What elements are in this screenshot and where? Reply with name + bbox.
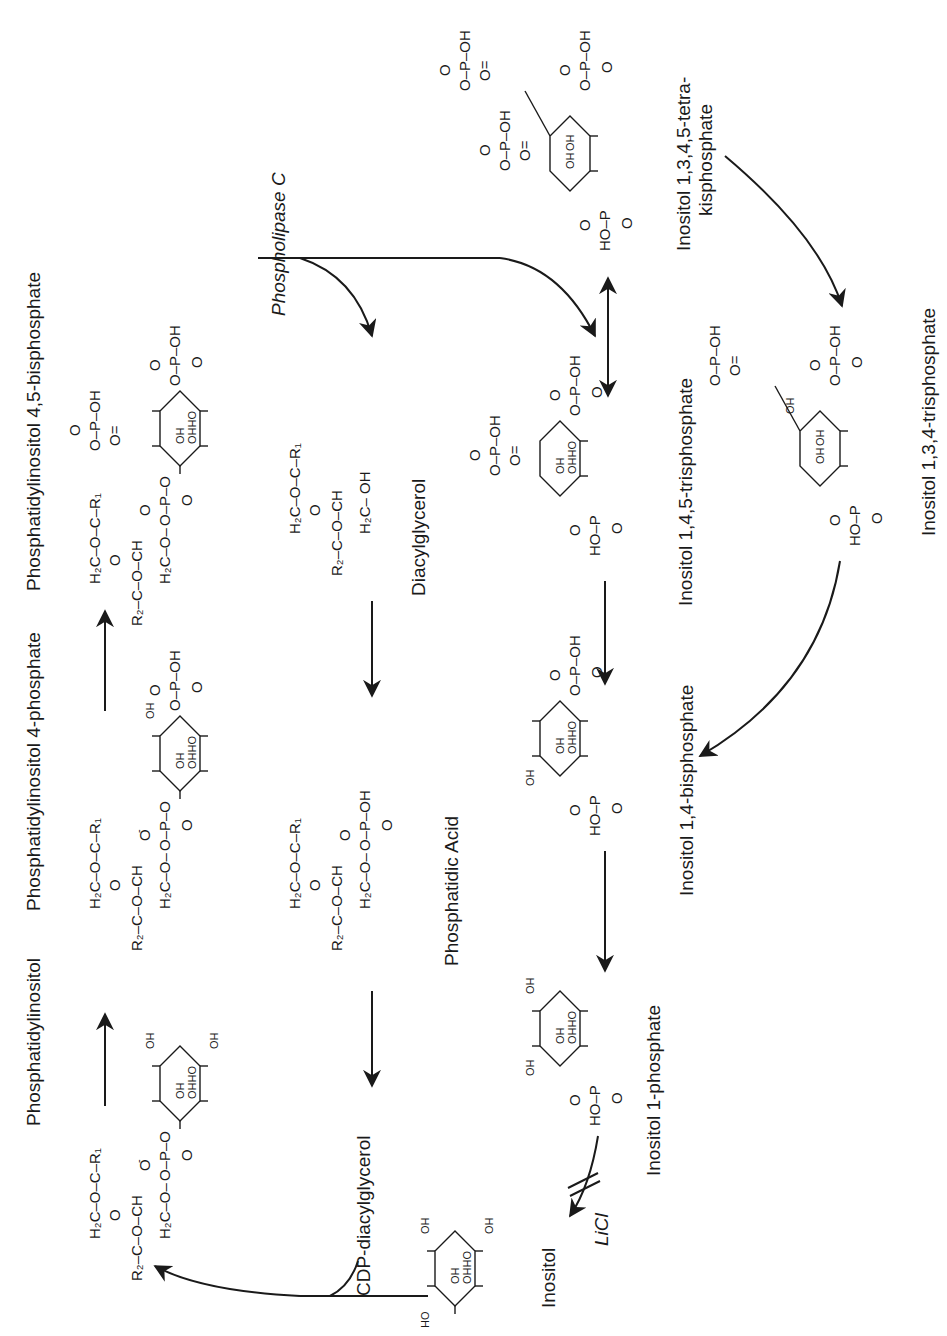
label-ip1: Inositol 1-phosphate [643,1005,664,1176]
chem-row: H₂C–O– [356,853,373,909]
licl-block-mark-2 [568,1173,598,1188]
ring-oh: OH [554,1027,566,1044]
chem-row: O–P–OH [86,390,103,451]
chem-row: HO–P [846,505,863,546]
chem-row: R₂–C–O–CH [128,540,145,626]
inositol-ring: OH OHHO OH [144,702,208,799]
chem-row: HO–P [596,210,613,251]
structure-ip2: HO–P O O OH OHHO OH O–P–OH O O [524,635,625,836]
chem-row: H₂C–O–C–R₁ [286,818,303,909]
atom: O [608,522,625,534]
ring-ho: HO [419,1311,431,1328]
inositol-ring: OH OHHO OH OH [144,1032,220,1129]
chem-row: H₂C–O–C–R₁ [86,1148,103,1239]
ring-oh: OH [564,152,576,169]
atom: O [566,804,583,816]
atom: O [146,684,163,696]
ring-oh: OH [564,134,576,151]
ring-oh: OH [524,1059,536,1076]
label-diacylglycerol: Diacylglycerol [408,479,429,596]
atom: O [588,666,605,678]
atom: O [598,61,615,73]
chem-row: O–P–OH [826,325,843,386]
chem-row: R₂–C–O–CH [128,865,145,951]
atom: O [306,879,323,891]
inositol-ring: OH OH OH [775,386,848,486]
atom: O [566,524,583,536]
label-phosphatidic-acid: Phosphatidic Acid [441,816,462,966]
structure-ip1: HO–P O O OH OHHO OH OH [524,977,625,1126]
atom: O [806,359,823,371]
inositol-ring: OH OHHO [540,421,588,496]
atom: O [566,1094,583,1106]
atom: O [106,1209,123,1221]
atom: O= [506,445,523,466]
chem-row: O–P–OH [166,325,183,386]
structure-ip3-134: HO–P O O OH OH OH O–P–OH O= O–P–OH O O [706,325,885,546]
ring-ohho: OHHO [566,721,578,754]
charge: - [132,829,144,833]
arrow-ip3-134-to-ip2 [700,561,840,756]
atom: O [826,514,843,526]
chem-row: O–P–O [156,476,173,526]
arrow-plc-to-ip3 [500,258,595,336]
atom: O [608,802,625,814]
chem-row: HO–P [586,795,603,836]
pathway-figure: Phosphatidylinositol Phosphatidylinosito… [0,0,947,1336]
chem-row: H₂C–O–C–R₁ [86,493,103,584]
inositol-ring: OH OHHO OH OH [524,977,588,1076]
structure-pa: O R₂–C–O–CH H₂C–O–C–R₁ H₂C–O– O–P–OH O O [286,790,395,951]
atom: O [378,819,395,831]
ring-oh: OH [174,427,186,444]
structure-pi: O R₂–C–O–CH H₂C–O–C–R₁ H₂C–O– O–P–O O - … [86,1032,220,1281]
ring-ohho: OHHO [566,441,578,474]
chem-row: O–P–OH [566,355,583,416]
chem-row: R₂–C–O–CH [328,865,345,951]
ring-oh: OH [814,429,826,446]
label-cdp-diacylglycerol: CDP-diacylglycerol [353,1136,374,1297]
reaction-arrows [105,156,842,1296]
atom: O [608,1092,625,1104]
ring-oh: OH [554,457,566,474]
chem-row: H₂C–O–C–R₁ [86,818,103,909]
ring-ohho: OHHO [461,1251,473,1284]
atom: O [178,819,195,831]
chem-row: O–P–OH [356,790,373,851]
inositol-ring: OH OHHO [152,391,208,474]
structure-ip3: HO–P O O OH OHHO O–P–OH O= O O–P–OH O O [466,355,625,556]
label-phosphatidylinositol: Phosphatidylinositol [23,958,44,1126]
atom: O [576,219,593,231]
atom: O [868,512,885,524]
ring-ohho: OHHO [186,411,198,444]
atom: O [466,449,483,461]
ring-oh: OH [814,447,826,464]
label-ip4-line2: kisphosphate [695,104,716,216]
ring-ohho: OHHO [186,736,198,769]
ring-oh: OH [784,397,796,414]
label-ip3-134: Inositol 1,3,4-trisphosphate [918,308,939,536]
label-ip3: Inositol 1,4,5-trisphosphate [675,378,696,606]
label-licl: LiCl [591,1212,612,1246]
chem-row: O–P–OH [486,415,503,476]
atom: O [588,386,605,398]
chem-row: HO–P [586,515,603,556]
chem-row: O–P–OH [166,650,183,711]
chem-row: O–P–O [156,801,173,851]
chem-row: H₂C–O– [156,853,173,909]
atom: O [106,554,123,566]
atom: O [546,669,563,681]
ring-oh: OH [524,769,536,786]
ring-oh: OH [554,737,566,754]
inositol-ring: OH OHHO OH [524,701,588,786]
ring-oh: OH [419,1217,431,1234]
atom: O [556,64,573,76]
ring-ohho: OHHO [186,1066,198,1099]
ring-oh: OH [524,977,536,994]
atom: O [618,217,635,229]
label-ip2: Inositol 1,4-bisphosphate [676,685,697,896]
chem-row: HO–P [586,1085,603,1126]
chem-row: H₂C–O– [156,1183,173,1239]
atom: O [136,504,153,516]
atom: O [848,356,865,368]
label-ip4-line1: Inositol 1,3,4,5-tetra- [673,77,694,251]
